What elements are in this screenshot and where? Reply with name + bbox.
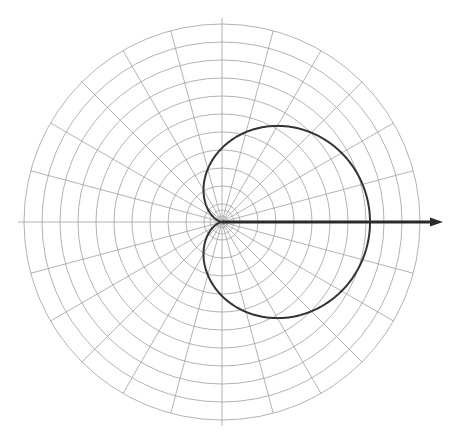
grid-spoke-345deg xyxy=(222,222,413,273)
grid-spoke-30deg xyxy=(222,123,393,222)
axis-arrow-head xyxy=(430,218,443,227)
grid-spoke-195deg xyxy=(31,222,222,273)
grid-spoke-105deg xyxy=(171,31,222,222)
grid-spoke-120deg xyxy=(123,51,222,222)
polar-plot-canvas xyxy=(0,0,461,436)
polar-plot-figure xyxy=(0,0,461,436)
grid-spoke-150deg xyxy=(51,123,222,222)
grid-spoke-225deg xyxy=(82,222,222,362)
grid-spoke-165deg xyxy=(31,171,222,222)
grid-spoke-210deg xyxy=(51,222,222,321)
grid-spoke-330deg xyxy=(222,222,393,321)
grid-spoke-240deg xyxy=(123,222,222,393)
grid-spoke-15deg xyxy=(222,171,413,222)
grid-spoke-135deg xyxy=(82,82,222,222)
grid-spoke-255deg xyxy=(171,222,222,413)
reference-axis-arrow-group xyxy=(222,218,443,227)
